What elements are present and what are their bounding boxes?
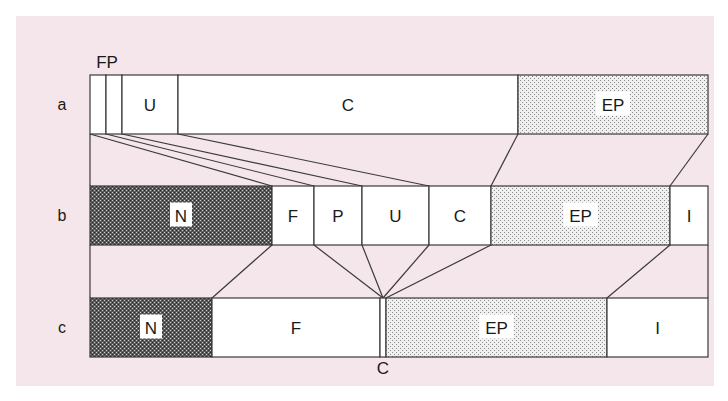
mapping-line-a-b: [670, 134, 708, 186]
segment-label: F: [288, 207, 298, 226]
mapping-line-b-c: [383, 245, 429, 298]
row-label-c: c: [58, 319, 66, 336]
segment-label: EP: [485, 319, 508, 338]
mapping-line-a-b: [122, 134, 362, 186]
segment-label: C: [342, 96, 354, 115]
c-below-label: C: [377, 359, 389, 378]
mapping-line-a-b: [106, 134, 314, 186]
segment-label: EP: [569, 207, 592, 226]
segment-label: P: [332, 207, 343, 226]
segment-label: I: [655, 319, 660, 338]
mapping-line-a-b: [491, 134, 518, 186]
mapping-line-b-c: [386, 245, 491, 298]
segment-label: EP: [602, 96, 625, 115]
segment-label: N: [145, 319, 157, 338]
segment-label: F: [291, 319, 301, 338]
row-label-b: b: [58, 207, 67, 224]
segment-label: U: [389, 207, 401, 226]
segment-label: C: [454, 207, 466, 226]
segment-mapping-diagram: UCEPaFPNFPUCEPIbNFEPIcC: [0, 0, 728, 401]
mapping-line-a-b: [178, 134, 429, 186]
segment-c-c: [380, 298, 386, 357]
segment-a-p: [106, 75, 122, 134]
fp-label: FP: [96, 53, 118, 72]
segment-label: N: [175, 207, 187, 226]
mapping-line-b-c: [607, 245, 670, 298]
mapping-line-b-c: [212, 245, 272, 298]
segment-a-f: [90, 75, 106, 134]
segment-label: U: [144, 96, 156, 115]
row-c: [90, 298, 708, 357]
segment-label: I: [687, 207, 692, 226]
row-label-a: a: [58, 96, 67, 113]
